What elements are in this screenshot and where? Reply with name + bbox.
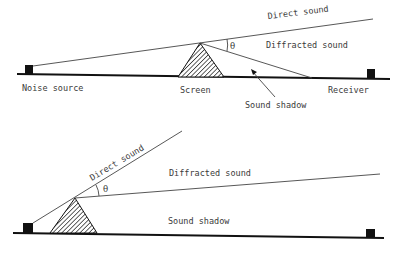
- screen-barrier: [50, 198, 97, 233]
- ground-line: [13, 233, 384, 238]
- receiver-block: [367, 69, 375, 78]
- receiver-block: [366, 229, 375, 238]
- angle-arc: [227, 39, 228, 51]
- sound-shadow-label: Sound shadow: [168, 216, 230, 226]
- theta-label: θ: [230, 41, 235, 51]
- theta-label: θ: [103, 184, 108, 194]
- arrow-head: [251, 69, 257, 75]
- bottom-diagram: Direct sound θ Diffracted sound Sound sh…: [13, 131, 384, 238]
- noise-source-block: [25, 65, 33, 74]
- sound-shadow-pointer: [252, 71, 275, 97]
- angle-arc: [96, 185, 99, 196]
- noise-source-block: [23, 223, 33, 233]
- sound-shadow-label: Sound shadow: [245, 100, 307, 110]
- top-diagram: Direct sound θ Diffracted sound Noise so…: [17, 4, 390, 110]
- screen-label: Screen: [180, 85, 211, 95]
- direct-sound-label: Direct sound: [267, 4, 329, 21]
- noise-source-label: Noise source: [22, 83, 83, 93]
- diffracted-sound-label: Diffracted sound: [169, 168, 251, 178]
- direct-sound-ray: [33, 131, 182, 223]
- direct-sound-label: Direct sound: [88, 143, 146, 183]
- sound-barrier-diagram: Direct sound θ Diffracted sound Noise so…: [0, 0, 404, 263]
- diffracted-sound-label: Diffracted sound: [266, 40, 348, 50]
- receiver-label: Receiver: [328, 85, 369, 95]
